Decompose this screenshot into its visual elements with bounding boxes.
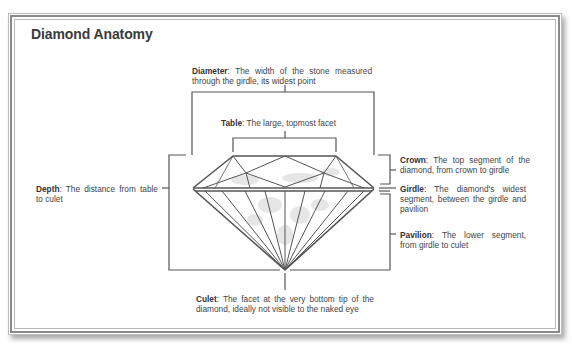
depth-term: Depth [36, 184, 60, 194]
depth-label: Depth: The distance from table to culet [36, 184, 158, 204]
depth-bracket [169, 155, 280, 270]
culet-label: Culet: The facet at the very bottom tip … [196, 294, 374, 314]
diameter-label: Diameter: The width of the stone measure… [192, 66, 372, 86]
crown-bracket [378, 155, 390, 184]
crown-label: Crown: The top segment of the diamond, f… [400, 155, 530, 175]
table-bracket [233, 138, 336, 152]
girdle-label: Girdle: The diamond's widest segment, be… [400, 184, 526, 214]
diameter-term: Diameter [192, 66, 228, 76]
table-description: : The large, topmost facet [242, 118, 336, 128]
table-term: Table [221, 118, 242, 128]
culet-term: Culet [196, 294, 217, 304]
table-label: Table: The large, topmost facet [221, 118, 361, 128]
girdle-term: Girdle [400, 184, 424, 194]
pavilion-bracket [380, 194, 390, 270]
diamond-outline [193, 156, 374, 270]
pavilion-label: Pavilion: The lower segment, from girdle… [400, 230, 526, 250]
crown-term: Crown [400, 155, 426, 165]
pavilion-term: Pavilion [400, 230, 432, 240]
culet-description: : The facet at the very bottom tip of th… [196, 294, 374, 314]
